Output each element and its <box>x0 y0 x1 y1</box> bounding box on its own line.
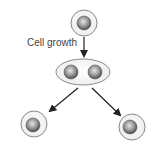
nucleus-icon <box>64 65 78 79</box>
nucleus-icon <box>77 16 91 30</box>
nucleus-icon <box>88 65 102 79</box>
cell-division-diagram <box>0 0 153 146</box>
daughter-cell-left <box>21 111 47 137</box>
cell-growth-label: Cell growth <box>27 37 77 48</box>
parent-cell <box>71 10 97 36</box>
daughter-cell-right <box>119 114 145 140</box>
nucleus-icon <box>26 118 40 132</box>
division-arrow-left-icon <box>50 88 78 111</box>
division-arrow-right-icon <box>92 88 120 115</box>
dividing-cell <box>56 59 110 85</box>
nucleus-icon <box>123 120 137 134</box>
